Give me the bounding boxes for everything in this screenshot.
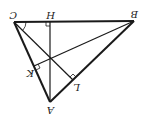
triangle-diagram: C H B K L A bbox=[0, 0, 146, 118]
label-c: C bbox=[9, 10, 17, 21]
right-angle-mark-l bbox=[70, 74, 76, 77]
side-ca bbox=[14, 22, 50, 102]
label-h: H bbox=[46, 10, 56, 21]
altitude-cl bbox=[14, 22, 73, 80]
angle-arc-c bbox=[23, 22, 26, 30]
altitude-bk bbox=[34, 21, 134, 66]
side-cb bbox=[14, 21, 134, 22]
label-k: K bbox=[26, 68, 35, 79]
label-a: A bbox=[47, 105, 55, 116]
label-l: L bbox=[73, 82, 81, 93]
label-b: B bbox=[131, 9, 139, 20]
side-ab bbox=[50, 21, 134, 102]
